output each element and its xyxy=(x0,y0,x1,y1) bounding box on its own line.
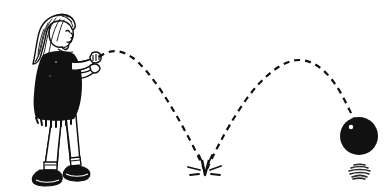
trajectory-second-arc xyxy=(207,60,356,169)
girl-figure xyxy=(32,14,101,186)
illustration-canvas: Girl bouncing a ball A girl releases a b… xyxy=(0,0,390,195)
ball-highlight xyxy=(349,125,353,129)
girl-shoes xyxy=(32,166,90,186)
girl-hands xyxy=(90,52,101,73)
ball xyxy=(340,117,378,155)
bounce-point xyxy=(202,160,209,175)
scene-svg xyxy=(0,0,390,195)
trajectory-first-arc xyxy=(99,51,204,169)
ball-shadow xyxy=(349,164,370,179)
